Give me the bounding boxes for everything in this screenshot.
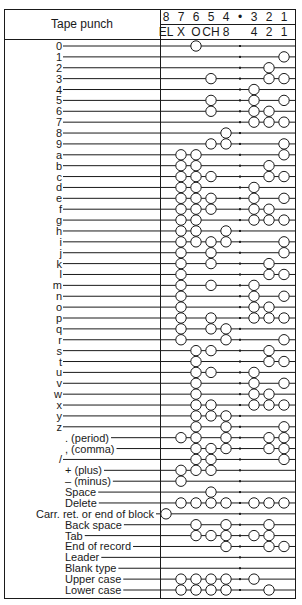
table-title: Tape punch — [51, 17, 113, 31]
punch-hole-icon — [206, 411, 216, 421]
channel-header-8: 8 — [163, 10, 170, 24]
punch-hole-icon — [191, 182, 201, 192]
sprocket-hole-icon — [239, 110, 241, 112]
punch-hole-icon — [176, 237, 186, 247]
punch-hole-icon — [279, 215, 289, 225]
punch-hole-icon — [176, 302, 186, 312]
punch-hole-icon — [249, 117, 259, 127]
sprocket-hole-icon — [239, 197, 241, 199]
punch-hole-icon — [279, 454, 289, 464]
punch-hole-icon — [264, 313, 274, 323]
table-row: End of record — [65, 540, 295, 552]
punch-hole-icon — [264, 302, 274, 312]
punch-hole-icon — [206, 204, 216, 214]
punch-hole-icon — [176, 476, 186, 486]
punch-hole-icon — [264, 400, 274, 410]
punch-hole-icon — [279, 237, 289, 247]
table-row: 2 — [56, 62, 295, 74]
table-row: w — [53, 388, 295, 400]
punch-hole-icon — [191, 432, 201, 442]
punch-hole-icon — [206, 345, 216, 355]
punch-hole-icon — [191, 160, 201, 170]
sprocket-hole-icon — [239, 393, 241, 395]
table-row: Lower case — [65, 584, 295, 596]
sprocket-hole-icon — [239, 67, 241, 69]
punch-hole-icon — [191, 41, 201, 51]
table-row: a — [56, 149, 295, 161]
channel-code-header: ELXOCH8421 — [159, 25, 288, 39]
table-row: – (minus) — [65, 475, 295, 487]
punch-hole-icon — [221, 324, 231, 334]
punch-hole-icon — [264, 443, 274, 453]
punch-hole-icon — [206, 454, 216, 464]
punch-hole-icon — [176, 313, 186, 323]
sprocket-hole-icon — [239, 165, 241, 167]
punch-hole-icon — [206, 248, 216, 258]
sprocket-hole-icon — [239, 89, 241, 91]
punch-hole-icon — [264, 63, 274, 73]
punch-hole-icon — [249, 291, 259, 301]
punch-hole-icon — [221, 128, 231, 138]
table-row: x — [57, 399, 296, 411]
table-row: u — [56, 366, 295, 378]
punch-hole-icon — [264, 541, 274, 551]
sprocket-hole-icon — [239, 513, 241, 515]
punch-hole-icon — [191, 454, 201, 464]
punch-hole-icon — [264, 356, 274, 366]
punch-hole-icon — [279, 498, 289, 508]
punch-hole-icon — [206, 193, 216, 203]
punch-hole-icon — [221, 335, 231, 345]
sprocket-hole-icon — [239, 361, 241, 363]
sprocket-hole-icon — [239, 219, 241, 221]
punch-hole-icon — [279, 291, 289, 301]
channel-code-2: 2 — [266, 25, 273, 39]
table-row: 1 — [56, 51, 295, 63]
punch-hole-icon — [249, 498, 259, 508]
sprocket-hole-icon — [239, 524, 241, 526]
punch-hole-icon — [221, 411, 231, 421]
punch-hole-icon — [264, 106, 274, 116]
punch-hole-icon — [191, 193, 201, 203]
punch-hole-icon — [249, 204, 259, 214]
punch-hole-icon — [249, 193, 259, 203]
channel-code-7: X — [177, 25, 185, 39]
punch-hole-icon — [191, 204, 201, 214]
channel-code-8: EL — [159, 25, 174, 39]
punch-hole-icon — [221, 226, 231, 236]
punch-hole-icon — [279, 335, 289, 345]
punch-hole-icon — [176, 432, 186, 442]
sprocket-hole-icon — [239, 176, 241, 178]
sprocket-hole-icon — [239, 458, 241, 460]
sprocket-hole-icon — [239, 556, 241, 558]
sprocket-hole-icon — [239, 502, 241, 504]
punch-hole-icon — [264, 258, 274, 268]
table-row: b — [56, 160, 295, 172]
punch-hole-icon — [279, 432, 289, 442]
sprocket-hole-icon — [239, 545, 241, 547]
punch-hole-icon — [206, 106, 216, 116]
channel-code-6: O — [191, 25, 200, 39]
punch-hole-icon — [191, 465, 201, 475]
punch-hole-icon — [221, 443, 231, 453]
channel-header-7: 7 — [178, 10, 185, 24]
punch-hole-icon — [279, 52, 289, 62]
punch-hole-icon — [206, 237, 216, 247]
sprocket-hole-icon — [239, 491, 241, 493]
punch-hole-icon — [191, 171, 201, 181]
punch-hole-icon — [191, 422, 201, 432]
table-row: , (comma) — [65, 443, 295, 455]
punch-hole-icon — [191, 367, 201, 377]
punch-hole-icon — [206, 324, 216, 334]
table-row: 6 — [56, 105, 295, 117]
sprocket-hole-icon — [239, 132, 241, 134]
punch-hole-icon — [176, 269, 186, 279]
punch-hole-icon — [206, 530, 216, 540]
punch-hole-icon — [279, 422, 289, 432]
punch-hole-icon — [264, 204, 274, 214]
table-row: n — [56, 290, 295, 302]
sprocket-hole-icon — [239, 121, 241, 123]
sprocket-hole-icon — [239, 415, 241, 417]
punch-hole-icon — [221, 585, 231, 595]
punch-hole-icon — [176, 171, 186, 181]
table-row: 5 — [56, 94, 295, 106]
